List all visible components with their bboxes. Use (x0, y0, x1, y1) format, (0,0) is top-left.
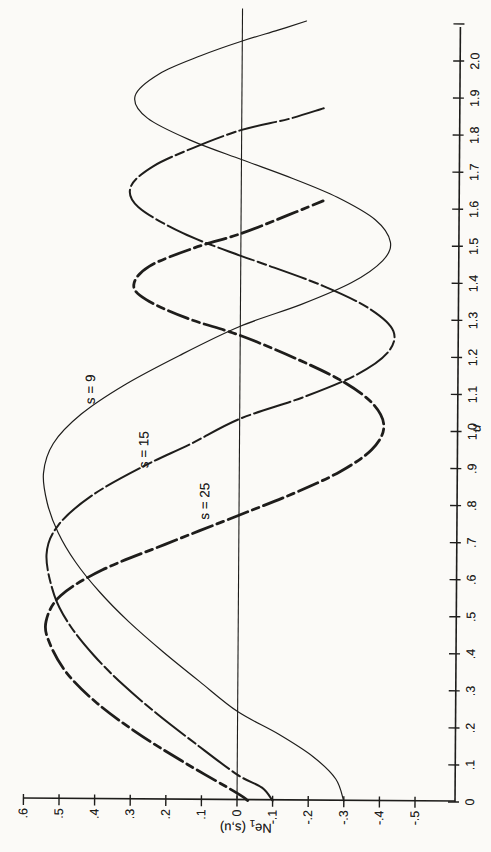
x-axis-title: u (469, 424, 484, 432)
ne-tick-label: .3 (123, 809, 137, 820)
mathieu-function-chart: 0.1.2.3.4.5.6.7.8.91.01.11.21.31.41.51.6… (0, 0, 491, 852)
ne-tick-label: .1 (194, 809, 208, 820)
u-tick-label: 1.3 (466, 312, 480, 330)
series-label-s15: s = 15 (136, 431, 151, 468)
curve-s15 (45, 106, 396, 801)
ne-tick-label: -.5 (408, 811, 422, 826)
u-tick-label: 1.4 (467, 275, 481, 293)
ne-tick-label: -.3 (337, 810, 351, 825)
ne-tick-label: -.2 (301, 810, 315, 825)
series-label-s9: s = 9 (83, 374, 98, 404)
u-tick-label: 2.0 (468, 52, 482, 70)
u-tick-label: 1.5 (467, 238, 481, 256)
chart-content: 0.1.2.3.4.5.6.7.8.91.01.11.21.31.41.51.6… (16, 7, 486, 837)
curve-s25 (44, 199, 385, 802)
ne-tick-label: .2 (159, 809, 173, 820)
u-tick-label: 1.9 (468, 89, 482, 107)
ne-tick-label: -.4 (372, 810, 386, 825)
ne-tick-label: .6 (16, 808, 30, 819)
u-tick-label: .6 (465, 575, 479, 586)
y-axis-title: Ne1 (s,u) (220, 818, 272, 836)
u-tick-label: 1.2 (466, 349, 480, 367)
u-tick-label: 1.1 (466, 386, 480, 404)
u-tick-label: 1.6 (467, 201, 481, 219)
u-tick-label: 1.8 (468, 126, 482, 144)
ne-axis-line (23, 798, 455, 801)
series-label-s25: s = 25 (197, 483, 212, 520)
scanned-figure-page: 0.1.2.3.4.5.6.7.8.91.01.11.21.31.41.51.6… (0, 0, 491, 852)
curve-s9 (41, 19, 392, 801)
u-axis-line (455, 27, 460, 802)
rotated-chart-canvas: 0.1.2.3.4.5.6.7.8.91.01.11.21.31.41.51.6… (0, 0, 491, 852)
zero-line (237, 8, 243, 798)
ne-tick-label: 0 (230, 809, 244, 816)
u-tick-label: .1 (463, 760, 477, 771)
ne-tick-label: .5 (52, 808, 66, 819)
u-tick-label: .8 (465, 500, 479, 511)
u-tick-label: .4 (464, 649, 478, 660)
u-tick-label: 1.7 (467, 163, 481, 181)
ne-tick-label: .4 (87, 808, 101, 819)
u-tick-label: .5 (464, 612, 478, 623)
u-tick-label: 0 (463, 799, 477, 806)
u-tick-label: .7 (465, 537, 479, 548)
u-tick-label: .3 (464, 686, 478, 697)
u-tick-label: .2 (463, 723, 477, 734)
u-tick-label: .9 (465, 463, 479, 474)
